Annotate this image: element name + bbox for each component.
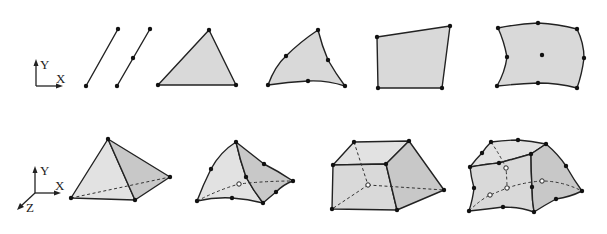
element-line-quadratic: [115, 27, 152, 88]
element-tri-quadratic: [266, 28, 347, 88]
element-tet-quadratic: [195, 140, 295, 205]
element-tet-linear: [69, 137, 172, 202]
element-quad-quadratic: [495, 21, 586, 90]
y-arrow-icon: [33, 166, 38, 173]
element-tri-linear: [156, 28, 238, 87]
axes-3d: Y X Z: [17, 163, 65, 215]
axes-2d: Y X: [34, 57, 67, 89]
axis-label-z: Z: [26, 200, 34, 215]
axis-label-y: Y: [40, 57, 50, 72]
element-line-linear: [84, 27, 120, 88]
axis-label-y: Y: [40, 163, 50, 178]
axis-label-x: X: [56, 71, 66, 86]
finite-element-types-diagram: Y X: [0, 0, 607, 234]
element-hex-quadratic: [467, 138, 584, 214]
axis-label-x: X: [55, 178, 65, 193]
element-quad-linear: [375, 24, 452, 90]
element-hex-linear: [330, 139, 446, 212]
y-arrow-icon: [34, 59, 39, 66]
